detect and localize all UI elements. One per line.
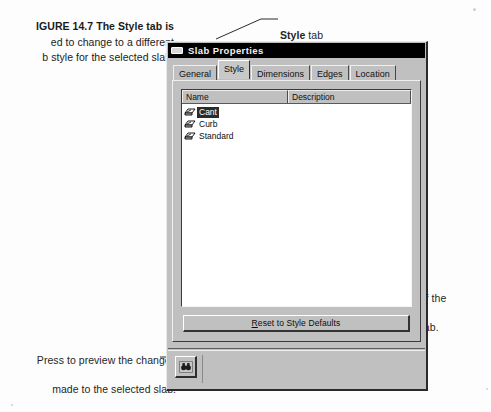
slab-window-icon <box>171 46 184 56</box>
listview-rows: Cant Curb <box>182 104 411 142</box>
list-item[interactable]: Curb <box>183 118 411 130</box>
dialog-title: Slab Properties <box>188 45 264 56</box>
column-header-name[interactable]: Name <box>182 90 288 103</box>
dialog-titlebar[interactable]: Slab Properties <box>168 43 425 58</box>
annotation-style-tab-bold: Style <box>280 29 305 41</box>
scan-speckle <box>11 404 13 406</box>
tab-dimensions[interactable]: Dimensions <box>251 65 310 81</box>
tab-edges[interactable]: Edges <box>311 65 349 81</box>
toolbar-separator <box>202 355 203 383</box>
list-item[interactable]: Cant <box>183 106 411 118</box>
scan-speckle <box>486 388 488 390</box>
list-item-name: Standard <box>197 131 236 142</box>
toolbar-divider <box>168 350 425 351</box>
reset-to-style-defaults-button[interactable]: Reset to Style Defaults <box>183 315 410 332</box>
list-item-name: Curb <box>197 119 219 130</box>
slab-properties-dialog[interactable]: Slab Properties General Style Dimensions… <box>166 41 428 391</box>
annotation-preview-button: Press to preview the changes made to the… <box>4 338 176 396</box>
binoculars-preview-icon <box>179 361 193 373</box>
list-item[interactable]: Standard <box>183 130 411 142</box>
style-listview[interactable]: Name Description Cant <box>181 89 412 307</box>
figure-caption-line2: ed to change to a different <box>51 36 174 48</box>
annotation-style-tab: Style tab <box>280 13 323 42</box>
figure-caption-line3: b style for the selected slab. <box>42 51 174 63</box>
tab-style[interactable]: Style <box>218 60 250 79</box>
figure-caption-label: IGURE 14.7 The Style tab is <box>36 20 174 32</box>
slab-style-icon <box>184 107 196 117</box>
dialog-tabstrip[interactable]: General Style Dimensions Edges Location <box>173 62 426 79</box>
annotation-preview-line1: Press to preview the changes <box>37 354 176 366</box>
annotation-style-tab-rest: tab <box>305 29 323 41</box>
column-header-description[interactable]: Description <box>288 90 411 103</box>
slab-style-icon <box>184 131 196 141</box>
listview-header: Name Description <box>182 90 411 104</box>
dialog-bottom-toolbar <box>168 348 425 388</box>
slab-style-icon <box>184 119 196 129</box>
style-tab-panel: Name Description Cant <box>172 80 421 342</box>
reset-button-label: eset to Style Defaults <box>258 318 341 328</box>
scan-speckle <box>473 8 476 11</box>
figure-caption: IGURE 14.7 The Style tab is ed to change… <box>0 19 174 66</box>
list-item-name: Cant <box>197 107 219 118</box>
tab-location[interactable]: Location <box>350 65 396 81</box>
annotation-preview-line2: made to the selected slab. <box>52 383 176 395</box>
preview-button[interactable] <box>175 356 197 378</box>
tab-general[interactable]: General <box>173 65 217 81</box>
